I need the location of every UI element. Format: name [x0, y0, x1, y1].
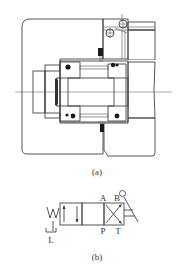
seal-icon — [111, 63, 115, 67]
tank-icon — [46, 228, 56, 232]
section-view — [15, 14, 172, 156]
right-bore — [128, 62, 155, 118]
caption-a: (a) — [92, 167, 102, 177]
seal-icon — [65, 64, 70, 69]
spool-sleeve — [60, 61, 128, 122]
detent-block — [103, 14, 155, 59]
spring-icon — [47, 207, 59, 218]
port-label-b: B — [114, 193, 120, 203]
caption-b: (b) — [92, 252, 103, 262]
port-label-t: T — [115, 226, 121, 236]
right-housing — [104, 22, 155, 156]
valve-symbol: L A B P T — [46, 191, 138, 246]
drain-port — [46, 221, 56, 232]
seal-icon — [65, 113, 68, 116]
technical-figure: (a) L A B — [0, 0, 183, 273]
seal-icon — [71, 114, 76, 119]
envelope-left — [60, 203, 82, 225]
port-label-p: P — [100, 226, 105, 236]
lever-knob-icon — [120, 191, 126, 197]
port-label-l: L — [48, 235, 54, 245]
seal-icon — [115, 63, 118, 66]
left-housing — [22, 19, 103, 154]
port-label-a: A — [100, 193, 107, 203]
pin-icon — [100, 124, 104, 132]
seal-icon — [115, 114, 120, 119]
lever-icon — [124, 197, 138, 222]
envelope-middle — [82, 203, 104, 225]
pin-icon — [98, 48, 103, 56]
lever-actuator — [120, 191, 139, 223]
